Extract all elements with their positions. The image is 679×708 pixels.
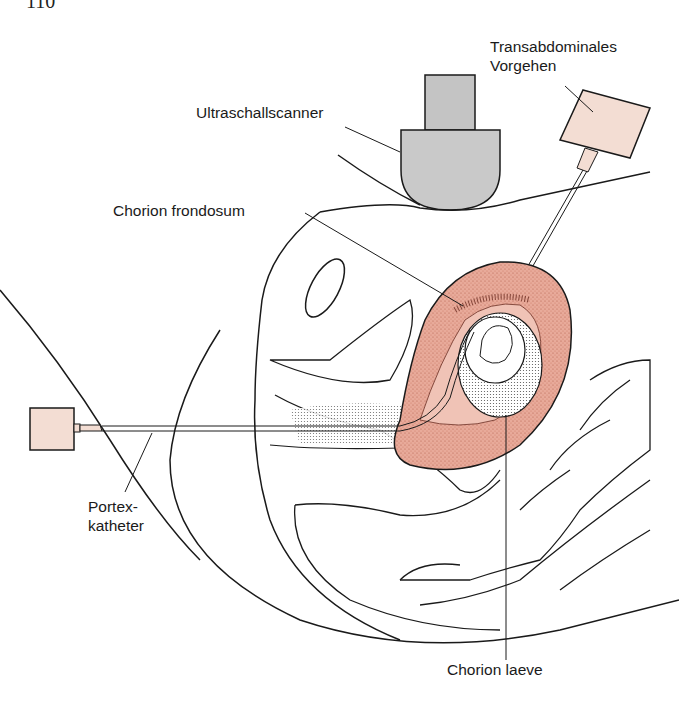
- label-ultraschallscanner: Ultraschallscanner: [196, 103, 324, 122]
- label-chorion-laeve: Chorion laeve: [447, 660, 543, 679]
- label-chorion-frondosum: Chorion frondosum: [113, 201, 245, 220]
- label-transabdominal-2: Vorgehen: [490, 56, 556, 75]
- uterus: [394, 262, 571, 470]
- label-portex-2: katheter: [88, 516, 144, 535]
- chorionic-villus-sampling-illustration: [0, 0, 679, 708]
- label-portex-1: Portex-: [88, 497, 138, 516]
- label-transabdominal-1: Transabdominales: [490, 37, 617, 56]
- ultrasound-scanner: [401, 75, 500, 210]
